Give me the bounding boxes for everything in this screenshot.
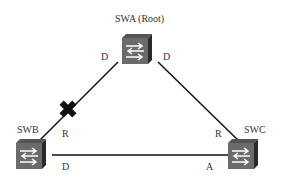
port-label-swa-left: D <box>101 52 108 62</box>
link-swa-swb <box>34 62 118 146</box>
port-label-swa-right: D <box>163 52 170 62</box>
link-swa-swc <box>158 62 244 146</box>
port-label-swb-right: D <box>62 162 69 172</box>
port-label-swc-up: R <box>215 129 222 139</box>
port-label-swb-up: R <box>62 129 69 139</box>
switch-icon-swc[interactable] <box>226 139 260 169</box>
node-label-swa: SWA (Root) <box>115 14 164 24</box>
port-label-swc-left: A <box>206 162 213 172</box>
node-label-swb: SWB <box>17 125 39 135</box>
switch-icon-swa[interactable] <box>120 34 154 64</box>
node-label-swc: SWC <box>244 125 266 135</box>
blocked-port-icon <box>55 96 80 121</box>
switch-icon-swb[interactable] <box>14 139 48 169</box>
